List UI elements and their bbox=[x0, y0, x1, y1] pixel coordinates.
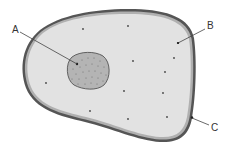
label-c: C bbox=[211, 122, 218, 133]
cell-diagram: A B C bbox=[0, 0, 231, 151]
leader-line-c bbox=[192, 118, 209, 125]
label-b: B bbox=[207, 20, 214, 31]
leader-endpoint-c bbox=[191, 116, 193, 118]
label-a: A bbox=[12, 24, 19, 35]
leader-endpoint-b bbox=[177, 42, 179, 44]
nucleus bbox=[67, 52, 109, 89]
